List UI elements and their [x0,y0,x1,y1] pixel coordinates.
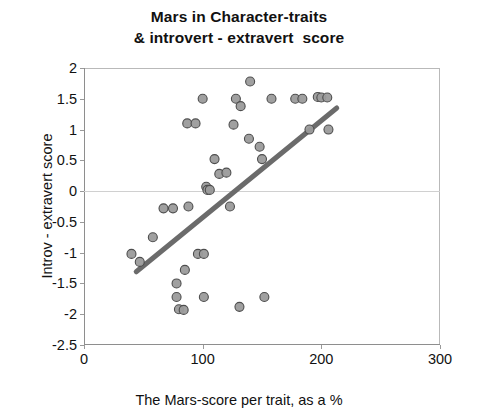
data-point [159,204,168,213]
data-point [127,249,136,258]
data-point [236,102,245,111]
x-tick-label: 300 [428,351,452,367]
y-tick-label: -2 [64,306,77,322]
data-point [180,265,189,274]
x-tick-label: 0 [80,351,88,367]
plot-area: 21.510.50-0.5-1-1.5-2-2.5 0100200300 [84,68,440,345]
chart-title-line-2: & introvert - extravert score [0,27,478,48]
data-point [305,125,314,134]
y-tick-label: 2 [69,60,77,76]
chart-title-line-1: Mars in Character-traits [0,6,478,27]
data-point [199,249,208,258]
x-tick-mark [84,345,85,349]
x-tick-mark [203,345,204,349]
x-axis-title: The Mars-score per trait, as a % [0,392,478,408]
data-point [148,233,157,242]
y-tick-label: 1.5 [57,91,77,107]
data-point [323,93,332,102]
x-tick-mark [440,345,441,349]
scatter-chart-figure: Mars in Character-traits & introvert - e… [0,0,478,419]
data-point [324,125,333,134]
data-point [229,120,238,129]
data-point [235,302,244,311]
data-point [246,77,255,86]
data-point [205,185,214,194]
data-point [298,94,307,103]
y-tick-label: -1 [64,245,77,261]
data-point [198,94,207,103]
data-point [135,257,144,266]
chart-title: Mars in Character-traits & introvert - e… [0,6,478,48]
y-tick-label: 0 [69,183,77,199]
scatter-plot-series [84,68,440,345]
data-point [267,94,276,103]
y-tick-label: -2.5 [52,337,77,353]
data-point [225,202,234,211]
data-point [184,202,193,211]
data-point [172,292,181,301]
data-point [244,134,253,143]
x-tick-label: 200 [309,351,333,367]
y-tick-label: -1.5 [52,275,77,291]
y-tick-label: 1 [69,122,77,138]
data-point [258,155,267,164]
data-point [260,292,269,301]
data-point [183,119,192,128]
x-tick-label: 100 [191,351,215,367]
data-point [199,292,208,301]
data-point [255,142,264,151]
x-tick-mark [321,345,322,349]
data-point [222,168,231,177]
data-point [210,155,219,164]
data-point [179,305,188,314]
data-point [169,204,178,213]
y-axis-title: Introv - extravert score [39,81,55,331]
y-tick-label: -0.5 [52,214,77,230]
y-tick-label: 0.5 [57,152,77,168]
data-point [191,119,200,128]
data-point [172,279,181,288]
